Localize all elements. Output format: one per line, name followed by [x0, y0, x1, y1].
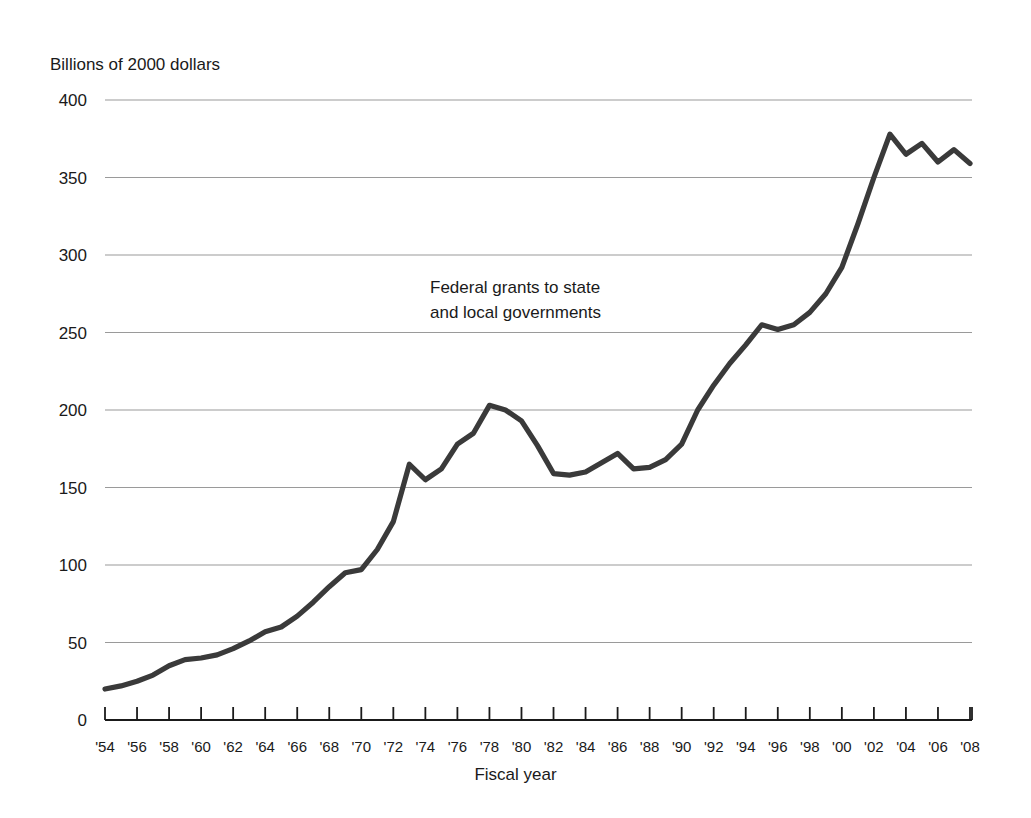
svg-text:'04: '04 [896, 738, 916, 755]
svg-text:250: 250 [59, 324, 87, 343]
svg-text:400: 400 [59, 91, 87, 110]
svg-text:'62: '62 [223, 738, 243, 755]
svg-text:'80: '80 [512, 738, 532, 755]
svg-text:'84: '84 [576, 738, 596, 755]
svg-text:'86: '86 [608, 738, 628, 755]
svg-text:'00: '00 [832, 738, 852, 755]
svg-text:'56: '56 [127, 738, 147, 755]
svg-text:'54: '54 [95, 738, 115, 755]
svg-text:'90: '90 [672, 738, 692, 755]
y-axis-title: Billions of 2000 dollars [50, 55, 220, 75]
svg-text:'60: '60 [191, 738, 211, 755]
svg-text:'66: '66 [287, 738, 307, 755]
svg-text:'08: '08 [960, 738, 980, 755]
svg-text:'82: '82 [544, 738, 564, 755]
chart-figure: Billions of 2000 dollars Federal grants … [0, 0, 1031, 818]
x-axis-title: Fiscal year [0, 765, 1031, 785]
svg-text:'06: '06 [928, 738, 948, 755]
gridlines-group [105, 100, 972, 643]
line-chart-plot: 050100150200250300350400 '54'56'58'60'62… [0, 0, 1031, 818]
svg-text:'76: '76 [448, 738, 468, 755]
svg-text:'64: '64 [255, 738, 275, 755]
svg-text:'02: '02 [864, 738, 884, 755]
svg-text:'68: '68 [319, 738, 339, 755]
svg-text:'70: '70 [352, 738, 372, 755]
svg-text:50: 50 [68, 634, 87, 653]
svg-text:'58: '58 [159, 738, 179, 755]
svg-text:'94: '94 [736, 738, 756, 755]
svg-text:150: 150 [59, 479, 87, 498]
x-tick-labels-group: '54'56'58'60'62'64'66'68'70'72'74'76'78'… [95, 738, 980, 755]
svg-text:'88: '88 [640, 738, 660, 755]
svg-text:'74: '74 [416, 738, 436, 755]
svg-text:'96: '96 [768, 738, 788, 755]
svg-text:100: 100 [59, 556, 87, 575]
svg-text:'92: '92 [704, 738, 724, 755]
x-axis-group [105, 707, 972, 720]
svg-text:300: 300 [59, 246, 87, 265]
svg-text:350: 350 [59, 169, 87, 188]
svg-text:'72: '72 [384, 738, 404, 755]
y-tick-labels-group: 050100150200250300350400 [59, 91, 87, 730]
data-line-group [105, 134, 970, 689]
svg-text:0: 0 [78, 711, 87, 730]
svg-text:'78: '78 [480, 738, 500, 755]
svg-text:'98: '98 [800, 738, 820, 755]
series-annotation-label: Federal grants to state and local govern… [430, 276, 601, 325]
svg-text:200: 200 [59, 401, 87, 420]
